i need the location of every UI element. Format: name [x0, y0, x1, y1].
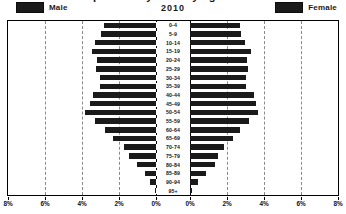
female-bar: [190, 57, 247, 62]
female-bar: [190, 179, 198, 184]
female-bar: [190, 127, 240, 132]
male-bar: [92, 49, 156, 54]
female-bar: [190, 92, 254, 97]
pyramid-row: 60-64: [8, 125, 338, 134]
male-bar: [145, 171, 156, 176]
male-bar: [85, 110, 156, 115]
female-bar: [190, 188, 192, 193]
x-axis-tick-label: 2%: [114, 200, 123, 207]
male-bar-cell: [8, 160, 156, 169]
female-bar-cell: [190, 21, 338, 30]
male-bar: [95, 40, 156, 45]
male-bar: [96, 66, 156, 71]
x-axis-tick-label: 6%: [296, 200, 305, 207]
male-bar: [137, 162, 156, 167]
age-group-label: 60-64: [156, 127, 190, 133]
male-bar-cell: [8, 186, 156, 195]
age-group-label: 80-84: [156, 162, 190, 168]
male-bar-cell: [8, 91, 156, 100]
male-bar-cell: [8, 125, 156, 134]
male-bar-cell: [8, 178, 156, 187]
male-bar-cell: [8, 73, 156, 82]
pyramid-row: 30-34: [8, 73, 338, 82]
pyramid-row: 85-89: [8, 169, 338, 178]
female-bar-cell: [190, 91, 338, 100]
female-bar: [190, 49, 251, 54]
male-bar-cell: [8, 38, 156, 47]
age-group-label: 20-24: [156, 57, 190, 63]
pyramid-row: 45-49: [8, 99, 338, 108]
male-bar-cell: [8, 30, 156, 39]
pyramid-row: 70-74: [8, 143, 338, 152]
male-bar-cell: [8, 47, 156, 56]
female-bar: [190, 75, 246, 80]
x-axis-tick-label: 4%: [259, 200, 268, 207]
male-bar: [95, 118, 156, 123]
pyramid-row: 0-4: [8, 21, 338, 30]
male-bar: [101, 31, 156, 36]
female-bar: [190, 153, 218, 158]
female-bar-cell: [190, 125, 338, 134]
female-bar-cell: [190, 117, 338, 126]
male-bar: [93, 92, 156, 97]
x-axis-tick-label: 6%: [40, 200, 49, 207]
male-bar: [129, 153, 156, 158]
age-group-label: 35-39: [156, 83, 190, 89]
female-bar: [190, 31, 241, 36]
female-bar-cell: [190, 82, 338, 91]
female-bar-cell: [190, 65, 338, 74]
pyramid-row: 95+: [8, 186, 338, 195]
male-bar: [100, 84, 156, 89]
pyramid-row: 90-94: [8, 178, 338, 187]
male-bar: [104, 23, 156, 28]
female-bar: [190, 110, 258, 115]
age-group-label: 10-14: [156, 40, 190, 46]
female-bar: [190, 171, 206, 176]
female-bar-cell: [190, 99, 338, 108]
age-group-label: 55-59: [156, 118, 190, 124]
chart-year-label: 2010: [0, 3, 346, 13]
female-bar-cell: [190, 47, 338, 56]
pyramid-row: 80-84: [8, 160, 338, 169]
male-bar-cell: [8, 56, 156, 65]
x-axis-tick-label: 0%: [185, 200, 194, 207]
female-bar-cell: [190, 143, 338, 152]
bar-rows: 0-45-910-1415-1920-2425-2930-3435-3940-4…: [8, 21, 338, 195]
pyramid-row: 20-24: [8, 56, 338, 65]
female-bar-cell: [190, 56, 338, 65]
female-bar: [190, 23, 240, 28]
male-bar-cell: [8, 108, 156, 117]
male-bar: [90, 101, 156, 106]
pyramid-row: 35-39: [8, 82, 338, 91]
x-axis-tick-label: 8%: [333, 200, 342, 207]
female-bar-cell: [190, 152, 338, 161]
female-bar-cell: [190, 134, 338, 143]
male-bar-cell: [8, 143, 156, 152]
pyramid-row: 15-19: [8, 47, 338, 56]
female-bar: [190, 144, 224, 149]
female-bar-cell: [190, 30, 338, 39]
age-group-label: 70-74: [156, 144, 190, 150]
male-bar-cell: [8, 99, 156, 108]
female-bar-cell: [190, 178, 338, 187]
female-bar-cell: [190, 160, 338, 169]
pyramid-row: 65-69: [8, 134, 338, 143]
pyramid-row: 55-59: [8, 117, 338, 126]
male-bar: [113, 136, 156, 141]
male-bar: [124, 144, 156, 149]
pyramid-row: 50-54: [8, 108, 338, 117]
male-bar-cell: [8, 152, 156, 161]
plot-area: 0-45-910-1415-1920-2425-2930-3435-3940-4…: [7, 20, 339, 196]
population-pyramid-chart: Population Pyramid by Age and Sex Male F…: [0, 0, 346, 214]
male-bar: [100, 75, 156, 80]
age-group-label: 0-4: [156, 22, 190, 28]
age-group-label: 45-49: [156, 101, 190, 107]
female-bar: [190, 118, 249, 123]
age-group-label: 40-44: [156, 92, 190, 98]
age-group-label: 30-34: [156, 75, 190, 81]
pyramid-row: 10-14: [8, 38, 338, 47]
x-axis-tick-label: 0%: [151, 200, 160, 207]
age-group-label: 50-54: [156, 109, 190, 115]
male-bar-cell: [8, 117, 156, 126]
x-axis-tick-label: 4%: [77, 200, 86, 207]
